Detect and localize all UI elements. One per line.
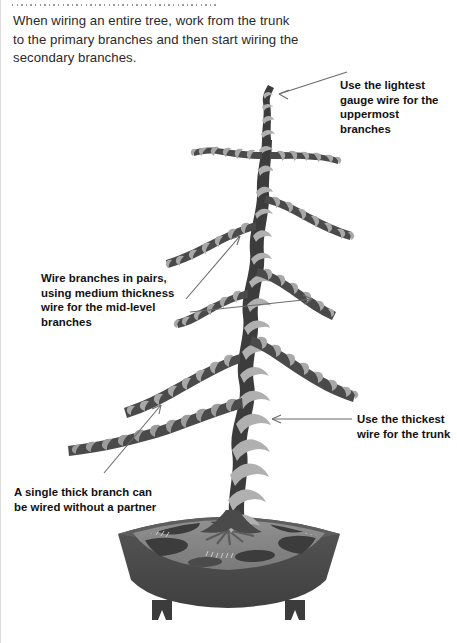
single-thick-branch [68,398,243,456]
callout-trunk-wire: Use the thickest wire for the trunk [357,412,457,441]
leader-trunk [272,415,352,423]
callout-uppermost-branches: Use the lightest gauge wire for the uppe… [340,78,452,136]
leader-top [279,72,347,99]
apex [261,85,275,140]
callout-mid-level-branches: Wire branches in pairs, using medium thi… [41,271,193,329]
illustration-page: When wiring an entire tree, work from th… [0,0,457,643]
callout-single-branch: A single thick branch can be wired witho… [14,485,164,514]
